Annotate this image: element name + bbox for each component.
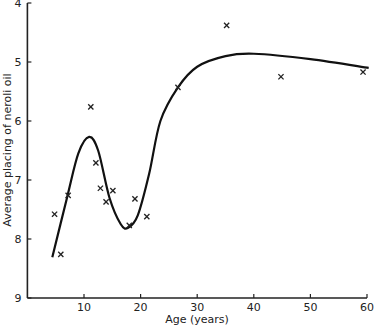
x-tick-label: 10	[77, 301, 91, 314]
x-marker	[224, 23, 229, 28]
x-tick-label: 60	[360, 301, 374, 314]
x-marker	[360, 69, 365, 74]
x-tick-label: 50	[303, 301, 317, 314]
chart: 456789102030405060 Age (years) Average p…	[0, 0, 378, 329]
fitted-curve	[52, 54, 368, 258]
y-tick-label: 5	[14, 56, 21, 69]
x-marker	[278, 74, 283, 79]
x-axis-label: Age (years)	[165, 313, 229, 326]
x-marker	[132, 196, 137, 201]
y-tick-label: 8	[14, 233, 21, 246]
y-tick-label: 9	[14, 292, 21, 305]
x-marker	[58, 252, 63, 257]
axes: 456789102030405060	[14, 0, 374, 314]
x-marker	[110, 188, 115, 193]
x-marker	[52, 212, 57, 217]
x-marker	[93, 160, 98, 165]
x-tick-label: 20	[134, 301, 148, 314]
y-tick-label: 4	[14, 0, 21, 10]
y-tick-label: 6	[14, 115, 21, 128]
x-marker	[103, 199, 108, 204]
y-tick-label: 7	[14, 174, 21, 187]
x-tick-label: 40	[247, 301, 261, 314]
x-marker	[88, 104, 93, 109]
data-markers	[52, 23, 366, 257]
x-marker	[98, 186, 103, 191]
y-axis-label: Average placing of neroli oil	[1, 73, 14, 226]
x-marker	[144, 214, 149, 219]
